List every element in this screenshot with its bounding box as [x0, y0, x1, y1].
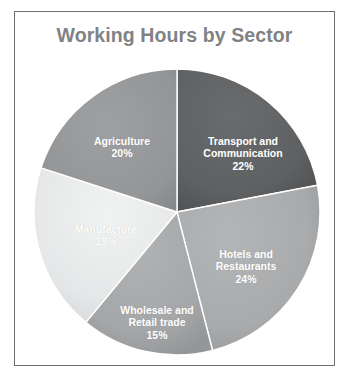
- chart-frame: Working Hours by Sector: [14, 11, 335, 366]
- chart-title: Working Hours by Sector: [15, 24, 334, 47]
